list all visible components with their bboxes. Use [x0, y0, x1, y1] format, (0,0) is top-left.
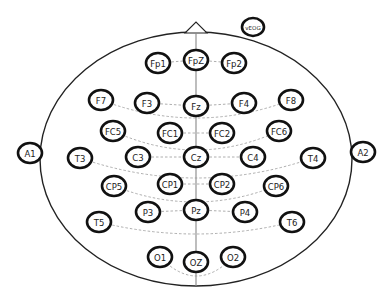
electrode-label: FC2: [214, 129, 230, 139]
electrode-fz: Fz: [184, 96, 208, 116]
electrode-cz: Cz: [184, 147, 208, 167]
electrode-label: FC1: [162, 129, 178, 139]
electrode-fc2: FC2: [210, 123, 234, 143]
electrode-f3: F3: [135, 93, 159, 113]
electrode-a1: A1: [18, 143, 42, 163]
electrode-fp1: Fp1: [146, 53, 170, 73]
electrode-t4: T4: [301, 148, 325, 168]
electrode-pz: Pz: [184, 200, 208, 220]
electrode-p3: P3: [136, 202, 160, 222]
electrode-fc6: FC6: [267, 121, 291, 141]
electrode-label: C4: [247, 153, 258, 163]
electrode-fc1: FC1: [158, 123, 182, 143]
nose-triangle-icon: [185, 22, 207, 33]
electrode-cp6: CP6: [264, 176, 288, 196]
electrode-p4: P4: [233, 202, 257, 222]
electrode-label: F4: [239, 99, 249, 109]
electrode-veog: vEOG: [242, 18, 264, 36]
electrode-f7: F7: [89, 90, 113, 110]
electrode-label: CP5: [106, 182, 122, 192]
electrode-label: T4: [307, 154, 319, 164]
electrode-label: P4: [240, 208, 251, 218]
electrode-label: FpZ: [188, 56, 204, 66]
electrode-t3: T3: [68, 148, 92, 168]
electrode-label: FC5: [105, 127, 121, 137]
electrode-label: F3: [142, 99, 152, 109]
electrode-label: OZ: [190, 258, 203, 268]
electrode-label: O1: [154, 253, 166, 263]
electrode-c3: C3: [126, 147, 150, 167]
electrode-label: A1: [24, 149, 35, 159]
electrode-o1: O1: [148, 247, 172, 267]
electrode-fc5: FC5: [101, 121, 125, 141]
electrode-label: C3: [132, 153, 143, 163]
electrode-fp2: Fp2: [222, 53, 246, 73]
electrode-fpz: FpZ: [184, 50, 208, 70]
electrode-label: Fz: [191, 102, 201, 112]
electrode-label: P3: [143, 208, 154, 218]
electrode-label: CP6: [268, 182, 284, 192]
electrode-label: Fp2: [226, 59, 242, 69]
eeg-electrode-diagram: vEOGFp1FpZFp2F7F3FzF4F8FC5FC1FC2FC6A1T3C…: [0, 0, 392, 304]
electrode-cp5: CP5: [102, 176, 126, 196]
electrode-label: A2: [357, 148, 368, 158]
electrode-oz: OZ: [184, 252, 208, 272]
electrode-label: vEOG: [245, 25, 260, 31]
electrode-label: Cz: [191, 153, 202, 163]
electrode-cp2: CP2: [210, 174, 234, 194]
electrode-f4: F4: [232, 93, 256, 113]
electrode-label: O2: [227, 253, 239, 263]
electrode-label: F8: [286, 96, 296, 106]
electrode-c4: C4: [241, 147, 265, 167]
electrode-label: T5: [93, 218, 105, 228]
electrode-label: CP2: [214, 180, 230, 190]
electrode-label: FC6: [271, 127, 287, 137]
electrode-label: T3: [74, 154, 86, 164]
electrode-label: CP1: [162, 180, 178, 190]
electrode-label: Fp1: [150, 59, 166, 69]
electrode-label: F7: [96, 96, 106, 106]
electrode-cp1: CP1: [158, 174, 182, 194]
electrode-label: T6: [286, 218, 298, 228]
electrode-a2: A2: [351, 142, 375, 162]
electrode-label: Pz: [191, 206, 201, 216]
electrode-f8: F8: [279, 90, 303, 110]
electrode-o2: O2: [221, 247, 245, 267]
electrode-t5: T5: [87, 212, 111, 232]
electrode-t6: T6: [280, 212, 304, 232]
